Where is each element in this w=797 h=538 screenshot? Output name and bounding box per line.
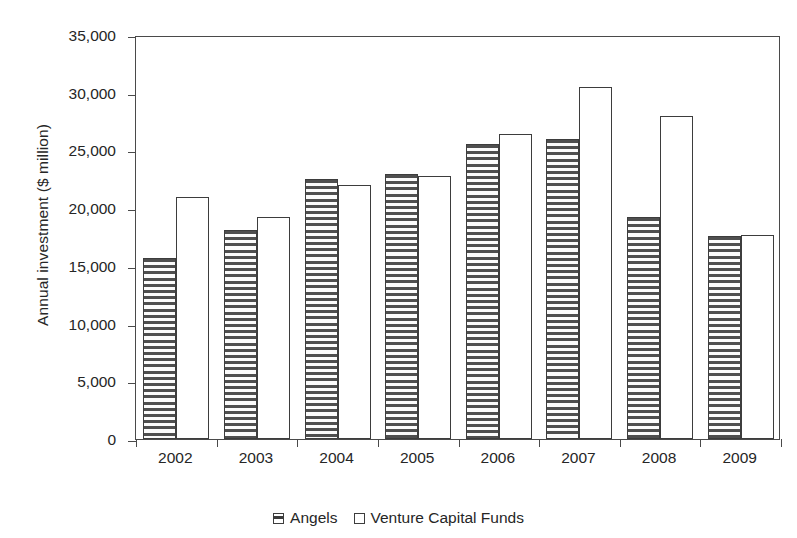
x-axis-tick-label: 2007 [561,449,595,467]
x-axis-tick-labels: 20022003200420052006200720082009 [135,449,780,477]
y-axis-tick-label: 20,000 [69,200,116,218]
y-axis-tick-label: 15,000 [69,258,116,276]
x-axis-tick [459,439,460,447]
bar-venture-capital-funds-2002 [176,197,209,439]
x-axis-tick [539,439,540,447]
bar-venture-capital-funds-2003 [257,217,290,439]
y-axis-tick [128,268,136,269]
x-axis-tick [136,439,137,447]
chart-figure: Annual investment ($ million) 05,00010,0… [0,0,797,538]
y-axis-tick [128,152,136,153]
empty-square-icon [354,513,365,524]
y-axis-tick [128,210,136,211]
bar-angels-2008 [627,217,660,439]
bar-angels-2009 [708,236,741,439]
y-axis-tick [128,326,136,327]
plot-area [135,36,780,440]
y-axis-tick [128,383,136,384]
x-axis-tick-label: 2008 [642,449,676,467]
x-axis-tick [217,439,218,447]
bar-venture-capital-funds-2005 [418,176,451,439]
x-axis-tick-label: 2003 [239,449,273,467]
x-axis-tick-label: 2009 [722,449,756,467]
x-axis-tick [781,439,782,447]
legend-entry-angels: Angels [273,509,337,527]
chart-legend: AngelsVenture Capital Funds [0,509,797,527]
y-axis-tick-label: 35,000 [69,27,116,45]
legend-entry-venture-capital-funds: Venture Capital Funds [354,509,524,527]
bar-angels-2003 [224,230,257,439]
x-axis-tick-label: 2002 [158,449,192,467]
bar-angels-2005 [385,174,418,439]
x-axis-tick-label: 2006 [481,449,515,467]
bar-angels-2002 [143,258,176,439]
bar-venture-capital-funds-2006 [499,134,532,439]
bar-angels-2007 [546,139,579,439]
y-axis-tick [128,95,136,96]
x-axis-tick [700,439,701,447]
x-axis-tick [378,439,379,447]
bar-angels-2006 [466,144,499,439]
y-axis-tick [128,441,136,442]
bar-angels-2004 [305,179,338,439]
x-axis-tick-label: 2005 [400,449,434,467]
y-axis-tick [128,37,136,38]
y-axis-tick-label: 25,000 [69,142,116,160]
y-axis-tick-label: 30,000 [69,85,116,103]
bar-venture-capital-funds-2009 [741,235,774,439]
bar-venture-capital-funds-2007 [579,87,612,439]
x-axis-tick-label: 2004 [319,449,353,467]
y-axis-tick-labels: 05,00010,00015,00020,00025,00030,00035,0… [0,36,126,440]
x-axis-tick [297,439,298,447]
legend-label: Venture Capital Funds [371,509,524,527]
bar-venture-capital-funds-2008 [660,116,693,439]
y-axis-tick-label: 10,000 [69,316,116,334]
plot-inner [136,37,779,439]
x-axis-tick [620,439,621,447]
y-axis-tick-label: 5,000 [77,373,116,391]
legend-label: Angels [290,509,337,527]
y-axis-tick-label: 0 [107,431,116,449]
hatched-square-icon [273,513,284,524]
bar-venture-capital-funds-2004 [338,185,371,439]
